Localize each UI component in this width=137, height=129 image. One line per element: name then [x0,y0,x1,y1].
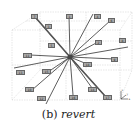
center-node [68,55,73,60]
revert-3d-diagram: 7 1 4 6 3 5 2 8 11 9 18 13 15 10 12 16 1… [0,0,137,108]
label-15: 15 [42,69,51,74]
label-2: 2 [95,40,102,45]
label-11: 11 [23,53,32,58]
label-14: 14 [88,87,97,92]
label-1: 1 [66,14,73,19]
svg-text:x: x [129,97,131,101]
label-17: 17 [103,95,112,100]
label-18: 18 [83,62,92,67]
label-9: 9 [111,57,118,62]
label-3: 3 [45,24,52,29]
axes-triad-icon: z y x [118,88,132,102]
label-8: 8 [119,38,126,43]
label-7: 7 [31,14,38,19]
caption-prefix: (b) [42,108,58,121]
label-4: 4 [94,14,101,19]
label-10: 10 [25,87,34,92]
label-13: 13 [16,70,25,75]
figure-caption: (b) revert [0,108,137,121]
label-5: 5 [48,43,55,48]
label-16: 16 [69,95,78,100]
caption-word: revert [61,108,95,121]
label-6: 6 [108,18,115,23]
svg-text:z: z [122,88,124,92]
svg-text:y: y [126,92,129,96]
label-12: 12 [37,96,46,101]
